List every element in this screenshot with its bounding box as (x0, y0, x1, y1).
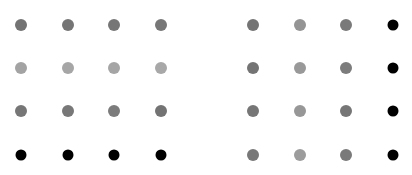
dot-r1-c1 (15, 19, 27, 31)
dot-r4-c1 (16, 150, 27, 161)
dot-r3-c2 (62, 105, 74, 117)
dot-r1-c6 (294, 19, 306, 31)
dot-r2-c5 (247, 62, 259, 74)
dot-r1-c2 (62, 19, 74, 31)
dot-r4-c4 (156, 150, 167, 161)
dot-r3-c3 (108, 105, 120, 117)
dot-r4-c6 (294, 149, 306, 161)
dot-r2-c7 (340, 62, 352, 74)
dot-r4-c8 (388, 150, 399, 161)
dot-r2-c8 (388, 63, 399, 74)
dot-r1-c8 (388, 20, 399, 31)
dot-r4-c3 (109, 150, 120, 161)
dot-r1-c4 (155, 19, 167, 31)
dot-r3-c5 (247, 105, 259, 117)
dot-r3-c7 (340, 105, 352, 117)
dot-r2-c4 (155, 62, 167, 74)
dot-r4-c7 (340, 149, 352, 161)
dot-r2-c1 (15, 62, 27, 74)
dot-r3-c4 (155, 105, 167, 117)
dot-r3-c1 (15, 105, 27, 117)
dot-r2-c3 (108, 62, 120, 74)
dot-r2-c6 (294, 62, 306, 74)
dot-r3-c6 (294, 105, 306, 117)
dot-r1-c3 (108, 19, 120, 31)
dot-r4-c5 (247, 149, 259, 161)
dot-r4-c2 (63, 150, 74, 161)
dot-r2-c2 (62, 62, 74, 74)
dot-r1-c5 (247, 19, 259, 31)
dot-r3-c8 (388, 106, 399, 117)
dot-matrix-figure (0, 0, 412, 175)
dot-r1-c7 (340, 19, 352, 31)
